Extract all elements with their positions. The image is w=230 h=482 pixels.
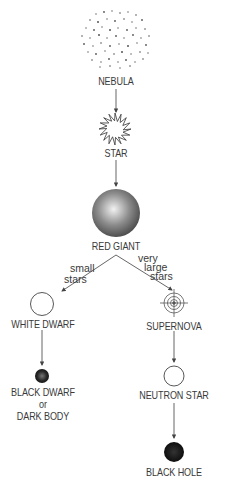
red-giant-label: RED GIANT	[88, 240, 144, 252]
red-giant-sphere-icon	[92, 189, 140, 237]
dark-body-label: DARK BODY	[13, 410, 74, 422]
supernova-label: SUPERNOVA	[142, 320, 206, 332]
black-hole-label: BLACK HOLE	[142, 466, 207, 478]
nebula-cloud-icon	[81, 10, 150, 68]
branch-label-small-stars: small stars	[64, 263, 104, 285]
star-label: STAR	[103, 147, 130, 159]
neutron-star-circle-icon	[164, 366, 184, 386]
nebula-label: NEBULA	[95, 75, 136, 87]
black-dwarf-or-label: or	[38, 398, 47, 410]
star-burst-icon	[99, 113, 131, 145]
black-hole-icon	[164, 442, 184, 462]
supernova-target-icon	[160, 289, 188, 317]
black-dwarf-label: BLACK DWARF	[6, 386, 80, 398]
branch-label-very-large-stars: very large stars	[138, 253, 198, 282]
black-dwarf-icon	[35, 369, 49, 383]
white-dwarf-label: WHITE DWARF	[6, 318, 80, 330]
white-dwarf-circle-icon	[31, 293, 54, 316]
neutron-star-label: NEUTRON STAR	[134, 389, 215, 401]
